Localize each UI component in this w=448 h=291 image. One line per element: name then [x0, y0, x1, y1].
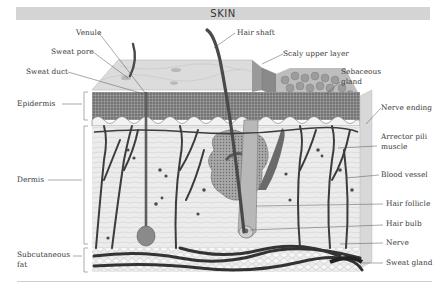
- label-nerve-ending: Nerve ending: [381, 104, 432, 113]
- label-venule: Venule: [76, 29, 101, 38]
- label-hair-follicle: Hair follicle: [386, 200, 430, 209]
- label-sebaceous: Sebaceous: [341, 68, 381, 77]
- label-sweat-pore: Sweat pore: [51, 48, 94, 57]
- label-sweat-gland: Sweat gland: [386, 259, 432, 268]
- skin-surface: [92, 60, 262, 90]
- label-muscle: muscle: [381, 143, 407, 152]
- label-dermis: Dermis: [17, 176, 44, 185]
- label-scaly-upper-layer: Scaly upper layer: [283, 50, 349, 59]
- label-arrector-pili: Arrector pili: [381, 133, 427, 142]
- label-nerve: Nerve: [386, 239, 409, 248]
- label-sweat-duct: Sweat duct: [26, 68, 68, 77]
- layer-brackets: [84, 92, 88, 272]
- sweat-gland-left: [137, 226, 155, 246]
- label-gland: gland: [341, 78, 362, 87]
- label-blood-vessel: Blood vessel: [381, 171, 428, 180]
- label-hair-shaft: Hair shaft: [237, 29, 275, 38]
- bottom-divider: [17, 281, 432, 282]
- label-subcutaneous: Subcutaneous: [17, 251, 70, 260]
- label-hair-bulb: Hair bulb: [386, 220, 422, 229]
- label-epidermis: Epidermis: [17, 100, 55, 109]
- label-fat: fat: [17, 261, 27, 270]
